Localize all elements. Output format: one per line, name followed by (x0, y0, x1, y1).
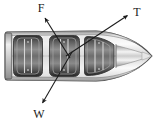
bow-compartment-fitting-top (98, 42, 100, 44)
deck-gap-mid-bow (81, 36, 84, 76)
bow-compartment (85, 37, 115, 76)
bow-compartment-fitting-bottom (98, 68, 100, 70)
mid-compartment-fitting-top (63, 41, 65, 43)
vector-f-label: F (38, 1, 45, 15)
mid-compartment-fitting-bottom (63, 69, 65, 71)
vector-t-label: T (133, 5, 141, 19)
stern-compartment (14, 36, 43, 77)
boat-hull-group (5, 31, 152, 81)
stern-compartment-fitting-top (27, 41, 29, 43)
stern-compartment-fitting-bottom (27, 69, 29, 71)
deck-gap-stern-mid (44, 36, 49, 76)
vector-w-label: W (33, 107, 45, 121)
mid-compartment (50, 36, 80, 77)
transom-stern-plate (5, 33, 12, 79)
diagram-canvas: F T W (0, 0, 159, 122)
boat-force-diagram: F T W (0, 0, 159, 122)
